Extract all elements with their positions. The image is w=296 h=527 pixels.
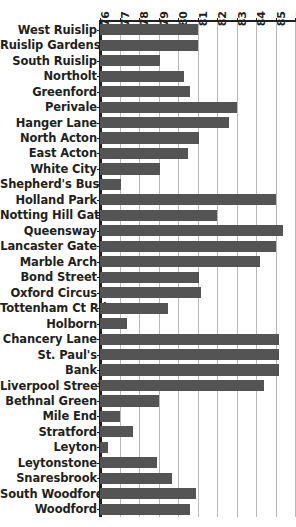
bar	[100, 457, 157, 468]
category-label: Notting Hill Gate	[0, 207, 97, 223]
bar-row	[100, 473, 295, 484]
bar	[100, 132, 199, 143]
bar	[100, 102, 237, 113]
bar-row	[100, 318, 295, 329]
bar	[100, 287, 201, 298]
category-label: Lancaster Gate	[0, 238, 97, 254]
bar	[100, 148, 188, 159]
bar	[100, 117, 229, 128]
bar	[100, 225, 283, 236]
bar-row	[100, 194, 295, 205]
bar	[100, 411, 120, 422]
category-label: Queensway	[0, 223, 97, 239]
bar	[100, 24, 198, 35]
bar-row	[100, 86, 295, 97]
bar	[100, 272, 199, 283]
bar-row	[100, 364, 295, 375]
category-label: Bank	[0, 362, 97, 378]
bar-row	[100, 40, 295, 51]
bar	[100, 194, 276, 205]
bar	[100, 380, 264, 391]
bar-row	[100, 179, 295, 190]
category-label: Chancery Lane	[0, 331, 97, 347]
bar-row	[100, 132, 295, 143]
category-label: Ruislip Gardens	[0, 37, 97, 53]
bar	[100, 40, 198, 51]
bar	[100, 426, 133, 437]
gridline-86	[295, 22, 296, 517]
category-label: Greenford	[0, 84, 97, 100]
bar	[100, 303, 168, 314]
bar	[100, 55, 160, 66]
bar-row	[100, 380, 295, 391]
bar-rows	[100, 22, 295, 517]
category-label: Holborn	[0, 316, 97, 332]
bar	[100, 210, 217, 221]
category-label: St. Paul's	[0, 347, 97, 363]
bar-row	[100, 24, 295, 35]
bar	[100, 256, 260, 267]
bar-row	[100, 55, 295, 66]
bar	[100, 86, 190, 97]
category-label: White City	[0, 161, 97, 177]
bar	[100, 179, 121, 190]
category-label: Tottenham Ct Rd	[0, 300, 97, 316]
category-label: Holland Park	[0, 192, 97, 208]
bar	[100, 488, 196, 499]
category-label: Leytonstone	[0, 455, 97, 471]
category-label: Woodford	[0, 501, 97, 517]
bar	[100, 334, 279, 345]
category-label: Mile End	[0, 408, 97, 424]
bar	[100, 395, 159, 406]
bar-row	[100, 349, 295, 360]
bar	[100, 504, 190, 515]
bar-row	[100, 256, 295, 267]
bar-row	[100, 225, 295, 236]
bar	[100, 163, 160, 174]
category-label: Perivale	[0, 99, 97, 115]
bar	[100, 318, 127, 329]
bar-row	[100, 504, 295, 515]
category-label: North Acton	[0, 130, 97, 146]
category-label: West Ruislip	[0, 22, 97, 38]
bar	[100, 241, 276, 252]
bar-row	[100, 457, 295, 468]
bar-row	[100, 71, 295, 82]
horizontal-bar-chart: 7677787980818283848586 West RuislipRuisl…	[0, 0, 296, 527]
x-tick-86	[295, 18, 296, 22]
bar-row	[100, 395, 295, 406]
category-label: Bond Street	[0, 269, 97, 285]
bar-row	[100, 117, 295, 128]
bar-row	[100, 102, 295, 113]
bar	[100, 349, 279, 360]
category-label: Bethnal Green	[0, 393, 97, 409]
bar-row	[100, 148, 295, 159]
bar-row	[100, 272, 295, 283]
bar	[100, 442, 108, 453]
category-label: Liverpool Street	[0, 378, 97, 394]
category-label: Leyton	[0, 439, 97, 455]
category-label: Hanger Lane	[0, 115, 97, 131]
bar-row	[100, 426, 295, 437]
bar-row	[100, 210, 295, 221]
x-axis-tick-labels: 7677787980818283848586	[0, 0, 296, 22]
category-label: South Ruislip	[0, 53, 97, 69]
category-label: Stratford	[0, 424, 97, 440]
bar	[100, 473, 172, 484]
bar-row	[100, 303, 295, 314]
plot-area	[100, 22, 295, 517]
category-label: Shepherd's Bush	[0, 176, 97, 192]
bar-row	[100, 287, 295, 298]
bar-row	[100, 163, 295, 174]
bar	[100, 71, 184, 82]
bar-row	[100, 411, 295, 422]
category-label: Snaresbrook	[0, 470, 97, 486]
y-axis-category-labels: West RuislipRuislip GardensSouth Ruislip…	[0, 22, 97, 517]
category-label: Northolt	[0, 68, 97, 84]
bar-row	[100, 488, 295, 499]
category-label: South Woodford	[0, 486, 97, 502]
category-label: Oxford Circus	[0, 285, 97, 301]
category-label: Marble Arch	[0, 254, 97, 270]
bar-row	[100, 442, 295, 453]
category-label: East Acton	[0, 145, 97, 161]
